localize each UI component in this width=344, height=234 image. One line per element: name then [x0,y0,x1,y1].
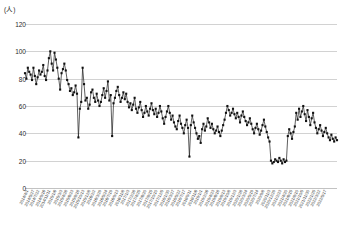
data-point-marker [89,104,91,106]
data-point-marker [281,162,283,164]
data-point-marker [72,94,74,96]
data-point-marker [191,115,193,117]
data-point-marker [146,110,148,112]
data-point-marker [39,74,41,76]
data-point-marker [250,123,252,125]
data-point-marker [308,116,310,118]
data-point-marker [136,112,138,114]
data-point-marker [298,108,300,110]
data-point-marker [264,125,266,127]
y-axis-tick-label: 40 [4,130,26,137]
data-point-marker [260,130,262,132]
data-point-marker [96,93,98,95]
data-point-marker [214,132,216,134]
data-point-marker [333,140,335,142]
data-point-marker [243,116,245,118]
data-point-marker [292,131,294,133]
data-point-marker [86,97,88,99]
data-point-marker [152,109,154,111]
data-point-marker [181,127,183,129]
data-point-marker [232,108,234,110]
data-point-marker [247,121,249,123]
data-point-marker [80,101,82,103]
data-point-marker [190,124,192,126]
data-point-marker [194,127,196,129]
chart-container: (人) 020406080100120 2014/4/12014/5/27201… [0,0,344,234]
data-point-marker [166,110,168,112]
data-point-marker [257,128,259,130]
data-point-marker [242,110,244,112]
data-point-marker [27,67,29,69]
data-point-marker [101,94,103,96]
data-point-marker [69,90,71,92]
data-point-marker [105,90,107,92]
data-point-marker [59,89,61,91]
x-axis-ticks: 2014/4/12014/5/272014/7/222014/9/162014/… [25,189,337,234]
data-point-marker [93,97,95,99]
data-point-marker [124,98,126,100]
data-point-marker [325,127,327,129]
data-point-marker [149,108,151,110]
y-axis-tick-label: 60 [4,103,26,110]
data-point-marker [222,124,224,126]
data-point-marker [62,68,64,70]
data-point-marker [115,90,117,92]
data-point-marker [287,135,289,137]
data-point-marker [141,109,143,111]
data-point-marker [35,83,37,85]
data-point-marker [215,130,217,132]
data-point-marker [84,99,86,101]
data-point-marker [261,124,263,126]
data-point-marker [236,112,238,114]
data-point-marker [34,75,36,77]
data-point-marker [240,115,242,117]
data-point-marker [108,99,110,101]
data-point-marker [103,87,105,89]
data-point-marker [87,108,89,110]
data-point-marker [184,124,186,126]
data-point-marker [37,76,39,78]
data-point-marker [159,105,161,107]
data-point-marker [297,119,299,121]
data-point-marker [301,110,303,112]
data-point-marker [273,161,275,163]
data-point-marker [336,139,338,141]
data-point-marker [79,108,81,110]
series-polyline [25,51,337,163]
data-point-marker [288,128,290,130]
data-point-marker [24,72,26,74]
data-point-marker [226,105,228,107]
data-point-marker [183,132,185,134]
data-point-marker [66,79,68,81]
data-point-marker [145,105,147,107]
data-point-marker [197,138,199,140]
data-point-marker [304,113,306,115]
data-point-marker [233,113,235,115]
data-point-marker [259,134,261,136]
data-point-marker [114,97,116,99]
data-point-marker [278,157,280,159]
data-point-marker [77,136,79,138]
data-point-marker [285,160,287,162]
data-point-marker [283,158,285,160]
data-point-marker [90,91,92,93]
data-point-marker [294,125,296,127]
data-point-marker [48,57,50,59]
data-point-marker [134,97,136,99]
data-point-marker [65,69,67,71]
data-point-marker [94,101,96,103]
data-point-marker [332,138,334,140]
data-point-marker [207,117,209,119]
data-point-marker [268,140,270,142]
data-point-marker [235,117,237,119]
data-point-marker [305,120,307,122]
data-point-marker [58,78,60,80]
data-point-marker [142,116,144,118]
data-point-marker [52,69,54,71]
y-axis-tick-label: 80 [4,75,26,82]
data-point-marker [238,116,240,118]
data-point-marker [128,106,130,108]
data-point-marker [41,71,43,73]
data-point-marker [143,112,145,114]
data-point-marker [91,89,93,91]
